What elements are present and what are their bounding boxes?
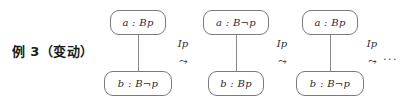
figure-example-3: 例 3（变动） a : Bp b : B¬p Ip ⤳ a : B¬p b : … bbox=[0, 0, 412, 106]
diagram-3-bottom-node: b : B¬p bbox=[296, 71, 364, 96]
diagram-3-top-node-label: a : Bp bbox=[314, 17, 345, 28]
diagram-1-top-node: a : Bp bbox=[110, 10, 166, 35]
diagram-3: a : Bp b : B¬p bbox=[302, 0, 358, 106]
figure-caption: 例 3（变动） bbox=[12, 43, 93, 61]
diagram-1-bottom-node-label: b : B¬p bbox=[118, 78, 158, 89]
diagram-2: a : B¬p b : Bp bbox=[203, 0, 269, 106]
diagram-1-edge bbox=[138, 35, 139, 71]
diagram-1-top-node-label: a : Bp bbox=[122, 17, 153, 28]
diagram-2-top-node: a : B¬p bbox=[203, 10, 269, 35]
diagram-1: a : Bp b : B¬p bbox=[110, 0, 166, 106]
trailing-ellipsis: ... bbox=[383, 50, 398, 63]
transition-2-label: Ip bbox=[265, 38, 299, 49]
diagram-3-edge bbox=[330, 35, 331, 71]
transition-1: Ip ⤳ bbox=[166, 0, 200, 106]
squiggly-arrow-icon: ⤳ bbox=[265, 56, 299, 68]
diagram-2-top-node-label: a : B¬p bbox=[216, 17, 256, 28]
diagram-3-top-node: a : Bp bbox=[302, 10, 358, 35]
transition-3-label: Ip bbox=[355, 38, 389, 49]
diagram-3-bottom-node-label: b : B¬p bbox=[310, 78, 350, 89]
diagram-2-bottom-node-label: b : Bp bbox=[220, 78, 252, 89]
diagram-1-bottom-node: b : B¬p bbox=[104, 71, 172, 96]
transition-2: Ip ⤳ bbox=[265, 0, 299, 106]
diagram-2-bottom-node: b : Bp bbox=[208, 71, 264, 96]
squiggly-arrow-icon: ⤳ bbox=[166, 56, 200, 68]
diagram-2-edge bbox=[236, 35, 237, 71]
transition-1-label: Ip bbox=[166, 38, 200, 49]
